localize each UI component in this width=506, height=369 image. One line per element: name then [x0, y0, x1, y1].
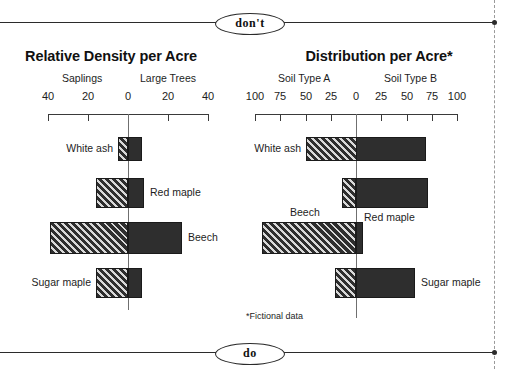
axis-tick-label: 50 — [401, 90, 413, 102]
bar-category-label: Beech — [188, 231, 218, 243]
chart-relative-density: Relative Density per Acre Saplings Large… — [0, 0, 250, 369]
axis-tick — [407, 114, 408, 121]
axis-side-label-soil-type-a: Soil Type A — [278, 72, 330, 84]
axis-tick-label: 0 — [125, 90, 131, 102]
bar-segment-right — [128, 178, 144, 208]
axis-tick-label: 40 — [42, 90, 54, 102]
chart-distribution: Distribution per Acre* Soil Type A Soil … — [250, 0, 500, 369]
axis-tick — [168, 114, 169, 121]
do-badge: do — [215, 343, 285, 365]
bar-segment-left — [50, 222, 128, 254]
axis-tick-label: 25 — [325, 90, 337, 102]
axis-tick-label: 20 — [82, 90, 94, 102]
axis-tick — [255, 114, 256, 121]
bar-segment-left — [306, 137, 357, 161]
dont-badge: don't — [215, 13, 285, 35]
axis-tick — [88, 114, 89, 121]
bar-category-label: White ash — [254, 142, 301, 154]
bar-segment-left — [96, 268, 128, 298]
bar-segment-left — [262, 222, 356, 254]
axis-tick-label: 20 — [162, 90, 174, 102]
bar-segment-right — [356, 268, 415, 298]
bar-segment-left — [335, 268, 356, 298]
chart-title-distribution: Distribution per Acre* — [254, 48, 504, 64]
axis-side-label-large-trees: Large Trees — [140, 72, 196, 84]
axis-tick-label: 0 — [353, 90, 359, 102]
axis-tick — [432, 114, 433, 121]
axis-tick — [457, 114, 458, 121]
axis-tick — [381, 114, 382, 121]
bar-category-label: Sugar maple — [421, 276, 481, 288]
bar-category-label: White ash — [66, 142, 113, 154]
bar-segment-right — [128, 268, 142, 298]
axis-tick-label: 40 — [202, 90, 214, 102]
bar-category-label: Beech — [290, 206, 320, 218]
bar-category-label: Red maple — [150, 186, 201, 198]
axis-tick — [48, 114, 49, 121]
bar-segment-right — [128, 222, 182, 254]
axis-tick-label: 75 — [274, 90, 286, 102]
axis-tick-label: 25 — [375, 90, 387, 102]
bar-segment-right — [356, 137, 426, 161]
axis-tick — [208, 114, 209, 121]
bar-segment-right — [356, 178, 428, 208]
axis-side-label-saplings: Saplings — [62, 72, 102, 84]
axis-tick-label: 100 — [246, 90, 264, 102]
axis-tick-label: 75 — [426, 90, 438, 102]
axis-side-label-soil-type-b: Soil Type B — [384, 72, 437, 84]
footnote-fictional-data: *Fictional data — [246, 311, 303, 321]
chart-title-relative-density: Relative Density per Acre — [0, 48, 236, 64]
bar-segment-left — [118, 137, 128, 161]
bar-category-label: Red maple — [364, 211, 415, 223]
axis-tick — [280, 114, 281, 121]
axis-tick-label: 100 — [448, 90, 466, 102]
axis-tick — [331, 114, 332, 121]
bar-segment-left — [96, 178, 128, 208]
axis-tick — [306, 114, 307, 121]
bar-segment-left — [342, 178, 356, 208]
bar-category-label: Sugar maple — [31, 276, 91, 288]
bar-segment-right — [356, 222, 363, 254]
bar-segment-right — [128, 137, 142, 161]
page-canvas: don't do Relative Density per Acre Sapli… — [0, 0, 506, 369]
axis-tick-label: 50 — [300, 90, 312, 102]
